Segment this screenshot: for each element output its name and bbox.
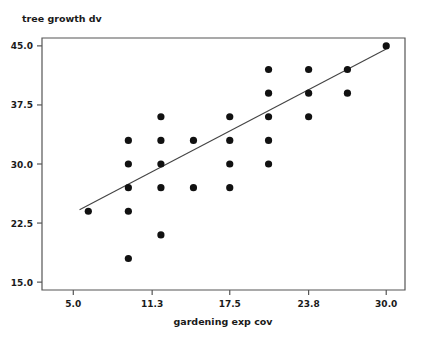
data-point-marker	[125, 255, 132, 262]
data-point-marker	[265, 160, 272, 167]
data-point-marker	[226, 137, 233, 144]
x-axis-title: gardening exp cov	[173, 316, 273, 327]
data-points	[85, 42, 390, 262]
data-point-marker	[344, 66, 351, 73]
data-point-marker	[265, 137, 272, 144]
x-tick-label: 5.0	[65, 299, 81, 309]
data-point-marker	[157, 113, 164, 120]
data-point-marker	[157, 160, 164, 167]
chart-canvas: tree growth dv 5.011.317.523.830.0 15.02…	[0, 0, 427, 342]
data-point-marker	[305, 66, 312, 73]
data-point-marker	[265, 113, 272, 120]
data-point-marker	[226, 160, 233, 167]
data-point-marker	[344, 90, 351, 97]
x-tick-label: 17.5	[219, 299, 241, 309]
x-axis-ticks: 5.011.317.523.830.0	[65, 290, 397, 309]
data-point-marker	[265, 90, 272, 97]
data-point-marker	[85, 208, 92, 215]
x-tick-label: 30.0	[375, 299, 397, 309]
data-point-marker	[157, 137, 164, 144]
data-point-marker	[190, 184, 197, 191]
data-point-marker	[125, 184, 132, 191]
data-point-marker	[190, 137, 197, 144]
data-point-marker	[305, 113, 312, 120]
data-point-marker	[383, 42, 390, 49]
y-axis-title: tree growth dv	[22, 13, 103, 24]
data-point-marker	[157, 231, 164, 238]
y-tick-label: 45.0	[11, 41, 33, 51]
data-point-marker	[265, 66, 272, 73]
x-tick-label: 23.8	[298, 299, 320, 309]
data-point-marker	[125, 160, 132, 167]
data-point-marker	[226, 113, 233, 120]
scatter-chart: tree growth dv 5.011.317.523.830.0 15.02…	[0, 0, 427, 342]
y-axis-ticks: 15.022.530.037.545.0	[11, 41, 42, 287]
y-tick-label: 37.5	[11, 100, 33, 110]
y-tick-label: 15.0	[11, 278, 33, 288]
y-tick-label: 30.0	[11, 160, 33, 170]
data-point-marker	[305, 90, 312, 97]
plot-border	[42, 38, 405, 290]
x-tick-label: 11.3	[141, 299, 163, 309]
data-point-marker	[125, 137, 132, 144]
data-point-marker	[226, 184, 233, 191]
plot-frame	[42, 38, 405, 290]
data-point-marker	[125, 208, 132, 215]
data-point-marker	[157, 184, 164, 191]
y-tick-label: 22.5	[11, 219, 33, 229]
